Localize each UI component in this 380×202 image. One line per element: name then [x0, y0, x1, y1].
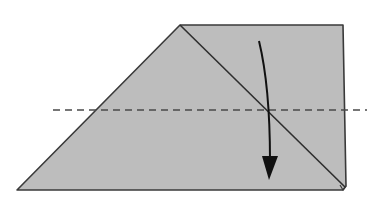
origami-diagram — [0, 0, 380, 202]
paper-back-layer — [17, 25, 346, 190]
